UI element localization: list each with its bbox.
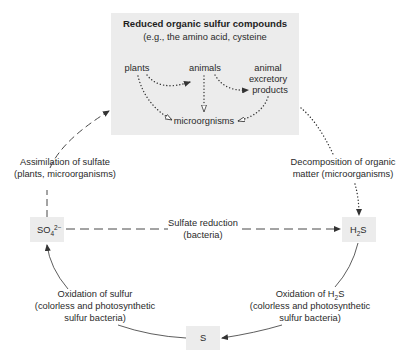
sulfur-node: S	[186, 326, 220, 350]
node-animals: animals	[189, 63, 221, 73]
node-excretory-line1: animal	[254, 63, 281, 73]
node-microorganisms: microorgnisms	[174, 116, 235, 126]
sulfate-node: SO42−	[30, 217, 64, 242]
label-oxidation-h2s-line3: sulfur bacteria)	[279, 313, 341, 323]
label-oxidation-h2s-line1: Oxidation of H2S	[276, 289, 345, 301]
organic-box-subtitle: (e.g., the amino acid, cysteine	[143, 32, 267, 42]
organic-compounds-box: Reduced organic sulfur compounds (e.g., …	[111, 13, 299, 135]
label-decomposition-line2: matter (microorganisms)	[293, 169, 394, 179]
node-excretory-line2: excretory	[249, 74, 288, 84]
sulfate-base: SO	[37, 225, 50, 235]
node-plants: plants	[125, 63, 150, 73]
label-oxidation-sulfur-line3: sulfur bacteria)	[64, 313, 126, 323]
label-oxidation-h2s-line2: (colorless and photosynthetic	[250, 301, 371, 311]
label-assimilation-line2: (plants, microorganisms)	[14, 169, 116, 179]
label-decomposition-line1: Decomposition of organic	[291, 157, 396, 167]
organic-box-title: Reduced organic sulfur compounds	[123, 18, 287, 29]
label-reduction-line2: (bacteria)	[183, 230, 222, 240]
h2s-h: H	[350, 225, 357, 235]
h2s-node: H2S	[342, 217, 376, 242]
label-oxidation-sulfur-line1: Oxidation of sulfur	[58, 289, 133, 299]
sulfur-cycle-diagram: Reduced organic sulfur compounds (e.g., …	[0, 0, 407, 361]
label-oxidation-sulfur-line2: (colorless and photosynthetic	[35, 301, 156, 311]
node-excretory-line3: products	[252, 85, 288, 95]
label-assimilation-line1: Assimilation of sulfate	[20, 157, 110, 167]
sulfur-label: S	[200, 333, 206, 343]
label-reduction-line1: Sulfate reduction	[168, 218, 238, 228]
